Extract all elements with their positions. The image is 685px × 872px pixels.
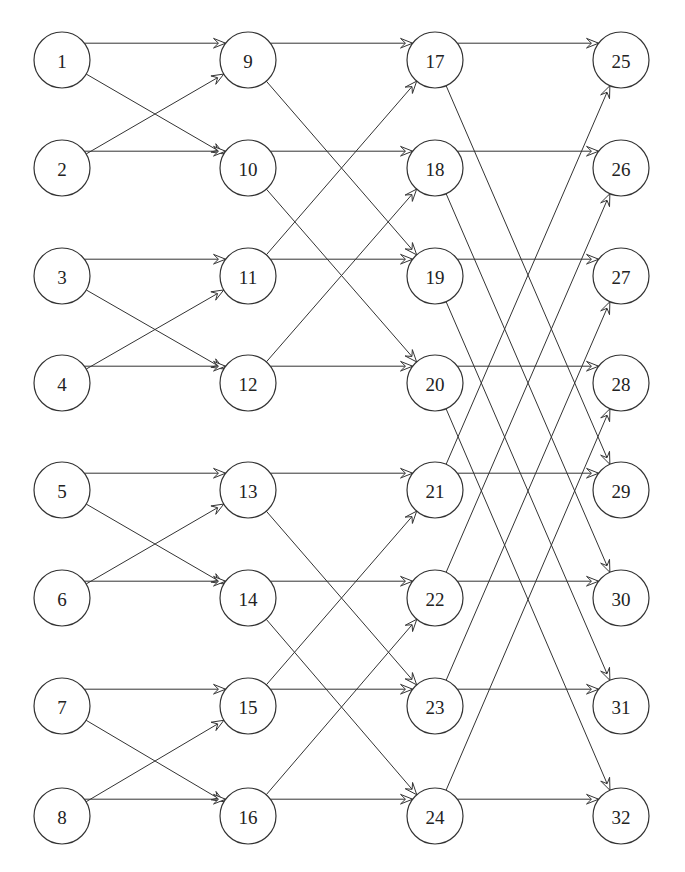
node-24: 24 [407,788,463,844]
node-4: 4 [34,355,90,411]
arrowhead-icon [211,504,224,514]
node-label: 21 [426,481,445,502]
node-20: 20 [407,355,463,411]
nodes-layer: 1234567891011121314151617181920212223242… [34,32,649,844]
node-2: 2 [34,140,90,196]
edges-layer [84,38,610,804]
node-label: 6 [57,589,67,610]
node-label: 5 [57,481,67,502]
node-23: 23 [407,678,463,734]
arrowhead-icon [211,720,224,730]
node-9: 9 [220,32,276,88]
node-32: 32 [593,788,649,844]
node-label: 3 [57,267,67,288]
node-label: 8 [57,807,67,828]
node-22: 22 [407,570,463,626]
node-label: 1 [57,51,67,72]
node-label: 11 [239,267,257,288]
arrowhead-icon [211,290,224,300]
node-27: 27 [593,248,649,304]
node-label: 30 [612,589,631,610]
node-31: 31 [593,678,649,734]
node-3: 3 [34,248,90,304]
node-label: 25 [612,51,631,72]
node-19: 19 [407,248,463,304]
node-28: 28 [593,355,649,411]
node-label: 27 [612,267,631,288]
node-21: 21 [407,462,463,518]
node-label: 23 [426,697,445,718]
node-14: 14 [220,570,276,626]
node-label: 9 [243,51,253,72]
node-29: 29 [593,462,649,518]
arrowhead-icon [211,74,224,84]
node-label: 24 [426,807,446,828]
node-label: 19 [426,267,445,288]
node-label: 10 [239,159,258,180]
node-6: 6 [34,570,90,626]
node-label: 4 [57,374,67,395]
node-label: 28 [612,374,631,395]
node-label: 32 [612,807,631,828]
node-12: 12 [220,355,276,411]
node-label: 15 [239,697,258,718]
node-label: 13 [239,481,258,502]
node-26: 26 [593,140,649,196]
node-label: 17 [426,51,445,72]
node-5: 5 [34,462,90,518]
node-label: 12 [239,374,258,395]
butterfly-network-diagram: 1234567891011121314151617181920212223242… [0,0,685,872]
node-30: 30 [593,570,649,626]
node-8: 8 [34,788,90,844]
node-11: 11 [220,248,276,304]
node-label: 7 [57,697,67,718]
node-25: 25 [593,32,649,88]
node-18: 18 [407,140,463,196]
node-17: 17 [407,32,463,88]
node-label: 2 [57,159,67,180]
node-label: 16 [239,807,258,828]
node-1: 1 [34,32,90,88]
node-label: 31 [612,697,631,718]
node-label: 29 [612,481,631,502]
node-label: 14 [239,589,259,610]
node-label: 20 [426,374,445,395]
node-label: 26 [612,159,631,180]
node-16: 16 [220,788,276,844]
node-label: 18 [426,159,445,180]
node-13: 13 [220,462,276,518]
node-10: 10 [220,140,276,196]
node-15: 15 [220,678,276,734]
node-label: 22 [426,589,445,610]
node-7: 7 [34,678,90,734]
